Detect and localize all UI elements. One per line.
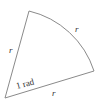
radian-sector-diagram: r r 1 rad r [0,0,106,105]
angle-label: 1 rad [15,76,36,91]
arc-line [29,11,94,71]
bottom-side-label: r [52,88,56,98]
left-side-label: r [9,45,13,55]
arc-label: r [75,24,79,34]
